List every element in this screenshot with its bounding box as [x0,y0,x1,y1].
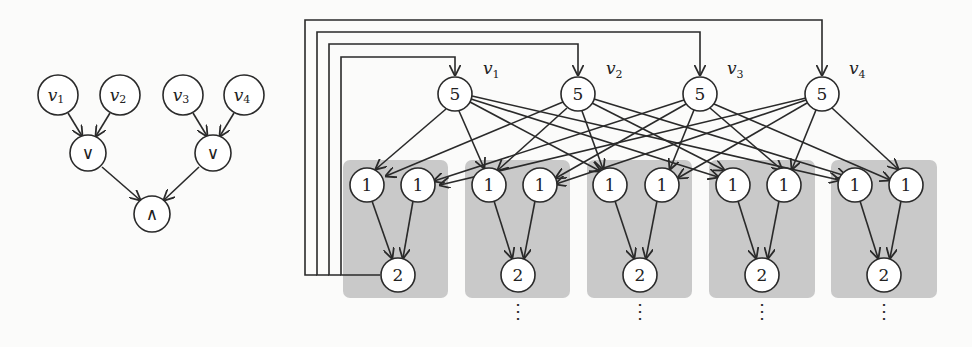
svg-text:1: 1 [901,175,912,195]
edge [193,113,207,136]
gadget-output-node: 2 [623,258,657,292]
svg-text:1: 1 [728,175,739,195]
svg-text:1: 1 [484,175,495,195]
input-node-v3: v3 [163,75,203,115]
svg-text:∨: ∨ [82,143,94,163]
edge [164,167,199,200]
input-node-v1: v1 [38,75,78,115]
gadget-output-node: 2 [867,258,901,292]
or-gate-left: ∨ [70,135,106,171]
gadget-input-node: 1 [838,168,872,202]
svg-text:2: 2 [513,265,524,285]
gadget-input-node: 1 [472,168,506,202]
edge [96,113,110,136]
reduction-network: 5 5 5 5 v1 v2 v3 v4 1 1 2 1 1 2 ⋮ [305,20,937,323]
continuation-dots: ⋮ [630,299,650,323]
svg-text:2: 2 [635,265,646,285]
svg-text:1: 1 [657,175,668,195]
svg-text:1: 1 [605,175,616,195]
gadget-input-node: 1 [593,168,627,202]
svg-text:5: 5 [817,84,828,104]
input-node-v2: v2 [100,75,140,115]
top-node-label-v1: v1 [483,58,500,81]
svg-text:2: 2 [757,265,768,285]
top-node-v2: 5 [561,77,595,111]
svg-text:5: 5 [573,84,584,104]
gadget-input-node: 1 [716,168,750,202]
continuation-dots: ⋮ [752,299,772,323]
formula-tree: v1 v2 v3 v4 ∨ ∨ ∧ [38,75,264,232]
svg-text:2: 2 [393,265,404,285]
continuation-dots: ⋮ [874,299,894,323]
svg-text:5: 5 [450,84,461,104]
gadget-input-node: 1 [767,168,801,202]
svg-text:∧: ∧ [146,204,158,224]
gadget-output-node: 2 [501,258,535,292]
top-node-v3: 5 [683,77,717,111]
gadget-input-node: 1 [523,168,557,202]
svg-text:1: 1 [535,175,546,195]
top-node-v4: 5 [805,77,839,111]
top-node-label-v3: v3 [727,58,744,81]
svg-text:1: 1 [362,175,373,195]
svg-text:∨: ∨ [207,143,219,163]
edge [102,167,140,200]
top-node-v1: 5 [438,77,472,111]
input-node-v4: v4 [224,75,264,115]
gadget-input-node: 1 [401,168,435,202]
edge [68,113,82,136]
or-gate-right: ∨ [195,135,231,171]
top-node-label-v4: v4 [849,58,866,81]
svg-text:1: 1 [850,175,861,195]
edge [220,113,234,136]
svg-text:1: 1 [779,175,790,195]
continuation-dots: ⋮ [508,299,528,323]
gadget-input-node: 1 [645,168,679,202]
gadget-output-node: 2 [745,258,779,292]
gadget-output-node: 2 [381,258,415,292]
gadget-input-node: 1 [350,168,384,202]
svg-text:5: 5 [695,84,706,104]
diagram-canvas: v1 v2 v3 v4 ∨ ∨ ∧ [0,0,972,347]
gadget-input-node: 1 [889,168,923,202]
and-gate: ∧ [134,196,170,232]
svg-text:1: 1 [413,175,424,195]
top-node-label-v2: v2 [606,58,623,81]
svg-text:2: 2 [879,265,890,285]
